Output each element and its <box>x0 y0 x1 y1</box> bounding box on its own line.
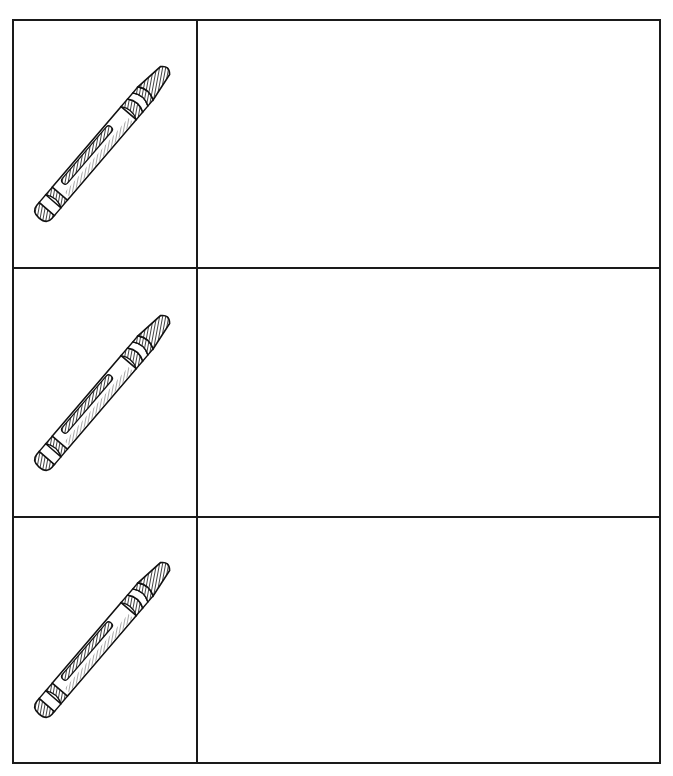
answer-cell-row-3[interactable] <box>198 518 659 762</box>
worksheet-table <box>12 19 661 764</box>
answer-cell-row-1[interactable] <box>198 21 659 269</box>
answer-cell-row-2[interactable] <box>198 269 659 518</box>
crayon-icon <box>29 57 180 228</box>
icon-cell-row-3 <box>14 518 198 762</box>
crayon-icon <box>29 553 180 724</box>
crayon-icon <box>29 305 180 476</box>
icon-cell-row-1 <box>14 21 198 269</box>
icon-cell-row-2 <box>14 269 198 518</box>
